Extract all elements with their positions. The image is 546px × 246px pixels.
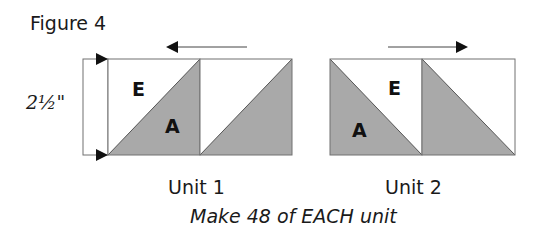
unit-1-square-1: E A xyxy=(108,59,200,155)
dimension-arrow-bottom-icon xyxy=(96,149,108,161)
unit-2: E A xyxy=(330,41,515,155)
unit-2-square-2 xyxy=(422,59,515,155)
piece-label-a: A xyxy=(165,115,180,137)
pressing-arrow-left-icon xyxy=(166,41,247,53)
unit-1-label: Unit 1 xyxy=(168,176,225,198)
figure-caption: Make 48 of EACH unit xyxy=(190,205,397,227)
dimension-arrow-top-icon xyxy=(96,53,108,65)
piece-label-e: E xyxy=(388,77,401,99)
pressing-arrow-right-icon xyxy=(388,41,468,53)
unit-2-square-1: E A xyxy=(330,59,422,155)
piece-label-e: E xyxy=(132,78,145,100)
unit-2-label: Unit 2 xyxy=(385,176,442,198)
dimension-bracket xyxy=(83,53,108,161)
unit-1-square-2 xyxy=(200,59,292,155)
unit-1: E A xyxy=(108,41,292,155)
piece-label-a: A xyxy=(352,119,367,141)
